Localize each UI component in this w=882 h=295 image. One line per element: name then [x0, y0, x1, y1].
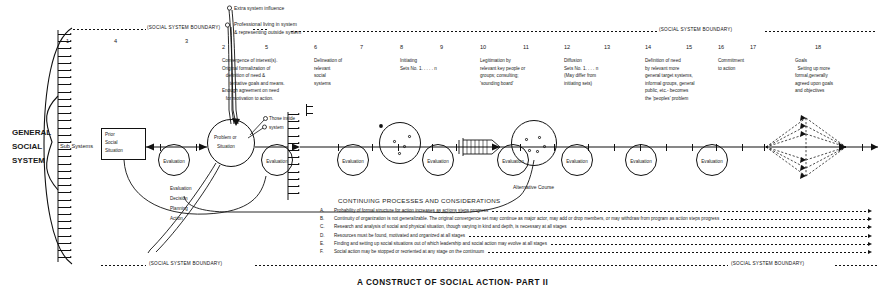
- stage-text-line: systems: [314, 80, 342, 88]
- midsystem-tick-arrow: [298, 178, 300, 180]
- continuing-item-text: Resources must be found, motivated and o…: [334, 233, 465, 238]
- top-boundary-dots-left: [72, 28, 146, 31]
- spine-tick: [614, 144, 615, 151]
- stage-text-definition-of-need: Definition of needby relevant moregenera…: [645, 57, 695, 103]
- midsystem-tick-arrow: [298, 171, 300, 173]
- stage-number-13: 13: [604, 44, 610, 51]
- group-set-circle: [379, 122, 421, 164]
- stage-text-line: Commitment: [718, 57, 744, 65]
- member-dot: [543, 145, 546, 148]
- spine-tick: [372, 144, 373, 151]
- boundary-label-bottom-left: (SOCIAL SYSTEM BOUNDARY): [148, 261, 223, 266]
- evaluation-circle: Evaluation: [561, 144, 593, 176]
- midsystem-tick-arrow: [298, 127, 300, 129]
- edpa-line-2: Planning: [170, 206, 188, 211]
- subsystem-tick-arrow: [70, 134, 72, 136]
- diagram-canvas: (SOCIAL SYSTEM BOUNDARY) (SOCIAL SYSTEM …: [0, 0, 882, 295]
- stage-text-line: 'sounding board': [480, 80, 525, 88]
- stage-number-16: 16: [718, 44, 724, 51]
- general-social-system-line1: GENERAL: [12, 128, 51, 137]
- callout-professional-line1: Professional living in system: [234, 22, 297, 28]
- continuing-item-rule: [551, 244, 868, 245]
- stage-text-line: Definition of need: [645, 57, 695, 65]
- evaluation-circle: Evaluation: [696, 144, 728, 176]
- subsystem-tick-arrow: [70, 83, 72, 85]
- stage-number-18: 18: [815, 44, 821, 51]
- edpa-line-0: Evaluation: [170, 186, 191, 191]
- subsystem-tick-arrow: [70, 119, 72, 121]
- continuing-item-arrow: [868, 234, 872, 238]
- member-dot: [408, 135, 411, 138]
- stage-text-line: to action: [718, 65, 744, 73]
- edpa-line-3: Action: [170, 216, 183, 221]
- callout-professional-line2: & representing outside system: [234, 30, 301, 36]
- subsystem-tick-arrow: [70, 235, 72, 237]
- member-dot: [403, 145, 406, 148]
- spine-tick: [666, 144, 667, 151]
- subsystem-tick-arrow: [70, 220, 72, 222]
- stage-text-line: general target systems,: [645, 72, 695, 80]
- subsystem-tick-arrow: [70, 177, 72, 179]
- member-dot: [398, 152, 401, 155]
- continuing-item-text: Probability of formal structure for acti…: [334, 208, 488, 213]
- stage-text-line: formal,generally: [795, 72, 833, 80]
- continuing-item-letter: A.: [320, 208, 324, 213]
- midsystem-tick-arrow: [298, 185, 300, 187]
- subsystem-tick-arrow: [70, 170, 72, 172]
- stage-text-line: Delineation of: [314, 57, 342, 65]
- prior-situation-line3: Situation: [105, 148, 123, 153]
- stage-text-legitimation: Legitimation byrelevant key people orgro…: [480, 57, 525, 87]
- stage-text-delineation: Delineation ofrelevantsocialsystems: [314, 57, 342, 87]
- subsystem-tick-arrow: [70, 55, 72, 57]
- stage-text-line: Original formalization of: [222, 65, 285, 73]
- stage-text-line: groups; consulting;: [480, 72, 525, 80]
- problem-line2: Situation: [217, 144, 235, 149]
- stage-text-line: Diffusion: [564, 57, 598, 65]
- stage-number-5: 5: [265, 44, 268, 51]
- stage-text-diffusion: DiffusionSets No. 1. . . . n(May differ …: [564, 57, 598, 87]
- stage-text-line: Setting up more: [795, 65, 833, 73]
- stage-text-line: Sets No. 1. . . . . n: [400, 65, 437, 73]
- stage-text-line: Enough agreement on need: [222, 87, 285, 95]
- member-dot: [525, 138, 528, 141]
- subsystem-tick-arrow: [70, 33, 72, 35]
- continuing-item-text: Finding and setting up social situations…: [334, 241, 547, 246]
- top-boundary-dots-right: [290, 30, 658, 33]
- stage-number-17: 17: [750, 44, 756, 51]
- stage-text-line: Convergence of interest(s).: [222, 57, 285, 65]
- stage-text-line: agreed upon goals: [795, 80, 833, 88]
- continuing-item-rule: [492, 211, 868, 212]
- continuing-item-rule: [469, 236, 868, 237]
- subsystem-tick-arrow: [70, 148, 72, 150]
- continuing-item-rule: [723, 219, 868, 220]
- member-dot: [538, 136, 541, 139]
- spine-tick: [742, 144, 743, 151]
- stage-number-6: 6: [314, 44, 317, 51]
- midsystem-tick-arrow: [298, 149, 300, 151]
- stage-text-line: relevant: [314, 65, 342, 73]
- edpa-line-1: Decision: [170, 196, 188, 201]
- stage-text-line: Sets No. 1. . . . n: [564, 65, 598, 73]
- evaluation-circle-label: Evaluation: [262, 159, 292, 164]
- evaluation-circle-label: Evaluation: [562, 159, 592, 164]
- callout-those-inside-line2: system: [269, 125, 284, 130]
- stage-text-line: by relevant more: [645, 65, 695, 73]
- continuing-item-text: Research and analysis of social and phys…: [334, 224, 567, 229]
- boundary-label-top-right: (SOCIAL SYSTEM BOUNDARY): [658, 27, 733, 32]
- stage-number-3: 3: [185, 38, 188, 45]
- callout-alternative-course: Alternative Course: [513, 185, 554, 191]
- stage-text-line: tentative goals and means.: [222, 80, 285, 88]
- midsystem-tick-arrow: [298, 120, 300, 122]
- stage-text-initiating: InitiatingSets No. 1. . . . . n: [400, 57, 437, 72]
- general-social-system-line2: SOCIAL: [12, 142, 42, 151]
- subsystem-tick-arrow: [70, 163, 72, 165]
- stage-number-2: 2: [222, 44, 225, 51]
- midsystem-tick-arrow: [298, 163, 300, 165]
- continuing-item-arrow: [868, 217, 872, 221]
- delineation-tick-stem: [306, 104, 307, 116]
- stage-number-11: 11: [523, 44, 529, 51]
- evaluation-circle: Evaluation: [337, 144, 369, 176]
- stage-number-12: 12: [564, 44, 570, 51]
- member-dot: [393, 140, 396, 143]
- subsystem-tick-arrow: [70, 47, 72, 49]
